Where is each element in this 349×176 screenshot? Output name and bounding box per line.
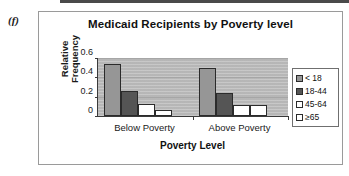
y-axis-tick-mark (95, 116, 98, 117)
legend-label: ≥65 (305, 113, 319, 122)
bar (121, 91, 138, 116)
y-axis-tick-label: 0.6 (67, 48, 93, 57)
chart-title: Medicaid Recipients by Poverty level (39, 18, 342, 30)
bar-group (199, 58, 267, 116)
x-axis-label: Poverty Level (97, 140, 288, 151)
x-axis-tick-mark (193, 116, 194, 120)
legend-label: 45-64 (305, 100, 327, 109)
legend-item[interactable]: 45-64 (296, 98, 336, 110)
chart-frame: Medicaid Recipients by Poverty level Rel… (38, 11, 343, 165)
legend-item[interactable]: ≥65 (296, 111, 336, 123)
bar (155, 110, 172, 116)
y-axis-tick-mark (95, 58, 98, 59)
y-axis-tick-label: 0.4 (67, 67, 93, 76)
chart-legend: < 1818-4445-64≥65 (292, 68, 339, 127)
legend-swatch-icon (296, 88, 303, 95)
bar (216, 93, 233, 116)
legend-item[interactable]: < 18 (296, 72, 336, 84)
legend-item[interactable]: 18-44 (296, 85, 336, 97)
legend-label: 18-44 (305, 87, 327, 96)
legend-label: < 18 (305, 74, 322, 83)
bar (250, 105, 267, 116)
plot-area (97, 58, 288, 117)
x-axis-tick-labels: Below PovertyAbove Poverty (97, 122, 288, 136)
y-axis-tick-label: 0.2 (67, 87, 93, 96)
legend-swatch-icon (296, 101, 303, 108)
page-top-rule (60, 0, 349, 3)
bar (138, 104, 155, 116)
legend-swatch-icon (296, 114, 303, 121)
bar (104, 64, 121, 116)
x-axis-tick-mark (288, 116, 289, 120)
y-axis-tick-mark (95, 97, 98, 98)
y-axis-tick-label: 0 (67, 106, 93, 115)
bar (233, 105, 250, 116)
figure-label: (f) (8, 14, 19, 26)
bar-group (104, 58, 172, 116)
y-axis-tick-mark (95, 77, 98, 78)
y-axis-tick-labels: 0.60.40.20 (67, 52, 93, 110)
x-axis-tick-label: Below Poverty (97, 122, 192, 133)
x-axis-tick-label: Above Poverty (192, 122, 287, 133)
bar (199, 68, 216, 116)
legend-swatch-icon (296, 75, 303, 82)
